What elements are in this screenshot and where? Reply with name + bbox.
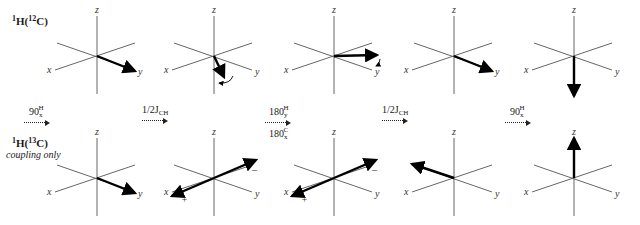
y-axis-label: y [614,66,620,77]
x-axis-label: x [283,64,289,75]
pulse-nucleus: H [284,104,289,112]
x-axis-label: x [523,64,529,75]
pulse-90x-h: 90xH [24,104,50,126]
z-axis-label: z [571,4,576,15]
delay-label: 1/2J [382,104,399,115]
row-label-1h12c: 1H(12C) [12,13,48,27]
pulse-phase: y [284,111,288,119]
y-axis-label: y [494,66,500,77]
plus-sign: + [301,194,308,205]
pulse-phase-carbon: x [284,133,288,141]
rotation-arrow-icon [376,59,380,66]
delay-label: 1/2J [142,104,159,115]
delay-half-j-1: 1/2JCH [142,104,168,124]
minus-sign: – [371,164,378,175]
z-axis-label: z [94,126,99,137]
delay-subscript: CH [159,109,169,117]
label-element2: C) [36,137,48,149]
axis-frame-bottom-1: zxy [46,126,143,216]
z-axis-label: z [331,126,336,137]
plus-sign: + [181,194,188,205]
pulse-90x-h-final: 90xH [505,104,531,126]
pulse-angle: 90 [510,106,520,117]
z-axis-label: z [94,4,99,15]
magnetization-vector-icon [214,160,256,178]
z-axis-label: z [331,4,336,15]
y-axis-label: y [374,66,380,77]
y-axis-label: y [614,188,620,199]
pulse-nucleus: H [520,104,525,112]
y-axis-label: y [137,66,143,77]
label-element2: C) [36,15,48,27]
x-axis-label: x [163,64,169,75]
pulse-angle: 90 [29,106,39,117]
x-axis-label: x [403,186,409,197]
x-axis-label: x [163,186,169,197]
y-axis-label: y [137,188,143,199]
pulse-nucleus: H [39,104,44,112]
dotted-arrow-icon [265,120,291,126]
delay-subscript: CH [399,109,409,117]
dotted-arrow-icon [382,118,408,124]
z-axis-label: z [451,126,456,137]
axis-frame-bottom-3: zxy+– [283,126,380,216]
x-axis-label: x [283,186,289,197]
dotted-arrow-icon [24,120,50,126]
row-label-1h13c: 1H(13C) [12,135,48,149]
x-axis-label: x [523,186,529,197]
delay-half-j-2: 1/2JCH [382,104,408,124]
row-sublabel-coupling-only: coupling only [6,149,61,160]
vector-diagrams-canvas: zxyzxyzxyzxyzxyzxyzxy+–zxy+–zxyzxy [0,0,640,225]
y-axis-label: y [494,188,500,199]
x-axis-label: x [403,64,409,75]
pulse-nucleus-carbon: C [284,126,289,134]
pulse-phase: x [520,111,524,119]
y-axis-label: y [254,66,260,77]
x-axis-label: x [46,186,52,197]
axis-frame-bottom-5: zxy [523,126,620,216]
axis-frame-top-4: zxy [403,4,500,94]
magnetization-vector-icon [454,56,492,71]
z-axis-label: z [571,126,576,137]
pulse-angle: 180 [269,106,284,117]
pulse-angle-carbon: 180 [269,128,284,139]
axis-frame-bottom-2: zxy+– [163,126,260,216]
label-element: H( [16,137,28,149]
z-axis-label: z [211,4,216,15]
magnetization-vector-icon [172,178,214,196]
pulse-180y-h-180x-c: 180yH 180xC [265,104,291,141]
axis-frame-top-1: zxy [46,4,143,94]
z-axis-label: z [451,4,456,15]
x-axis-label: x [46,64,52,75]
magnetization-vector-icon [97,178,135,193]
magnetization-vector-icon [412,164,454,178]
magnetization-vector-icon [292,178,334,196]
y-axis-label: y [254,188,260,199]
magnetization-vector-icon [334,55,377,56]
axis-frame-top-5: zxy [523,4,620,96]
minus-sign: – [251,164,258,175]
label-element: H( [16,15,28,27]
dotted-arrow-icon [142,118,168,124]
rotation-arrow-icon [219,76,233,83]
axis-frame-bottom-4: zxy [403,126,500,216]
magnetization-vector-icon [334,160,376,178]
z-axis-label: z [211,126,216,137]
vector-model-diagram: zxyzxyzxyzxyzxyzxyzxy+–zxy+–zxyzxy 1H(12… [0,0,640,225]
y-axis-label: y [374,188,380,199]
magnetization-vector-icon [214,56,224,77]
pulse-phase: x [39,111,43,119]
axis-frame-top-2: zxy [163,4,260,94]
magnetization-vector-icon [97,56,135,71]
axis-frame-top-3: zxy [283,4,380,94]
dotted-arrow-icon [505,120,531,126]
